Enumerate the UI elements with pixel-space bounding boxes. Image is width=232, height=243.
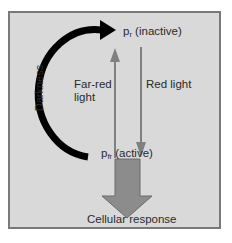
active-node-label: pfr (active): [101, 147, 153, 163]
red-light-arrow: [136, 47, 146, 157]
red-light-label: Red light: [146, 78, 191, 91]
response-arrow: [102, 159, 152, 218]
inactive-node-label: pr (inactive): [123, 25, 182, 41]
darkness-label: Darkness: [33, 65, 45, 111]
diagram-arrows: [0, 0, 232, 243]
cellular-response-label: Cellular response: [87, 213, 177, 226]
far-red-light-label: Far-redlight: [74, 78, 112, 104]
